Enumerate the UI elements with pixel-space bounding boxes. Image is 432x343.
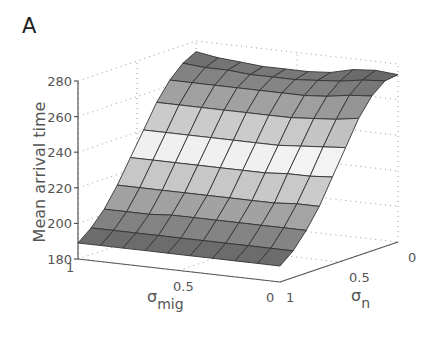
x-tick-label: 1 xyxy=(66,260,74,275)
z-tick-label: 280 xyxy=(47,74,72,89)
z-tick-label: 240 xyxy=(47,145,72,160)
y-axis-label: σn xyxy=(351,286,370,311)
z-tick-label: 200 xyxy=(47,216,72,231)
x-tick-label: 0 xyxy=(266,290,274,305)
surface-mesh xyxy=(78,52,398,266)
y-tick-label: 0.5 xyxy=(349,270,370,285)
y-tick-label: 0 xyxy=(408,250,416,265)
y-tick-label: 1 xyxy=(286,290,294,305)
z-tick-label: 220 xyxy=(47,181,72,196)
z-axis-label: Mean arrival time xyxy=(30,102,49,243)
z-tick-label: 260 xyxy=(47,110,72,125)
x-tick-label: 0.5 xyxy=(173,279,194,294)
surface-plot: 18020022024026028010.5010.50Mean arrival… xyxy=(0,0,432,343)
